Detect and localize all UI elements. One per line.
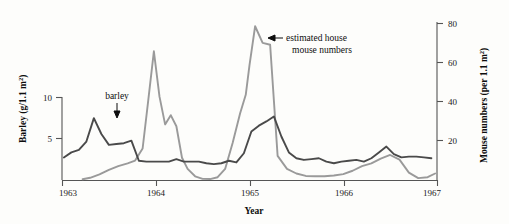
series-line-barley xyxy=(64,116,432,164)
annotation-mouse-label-line1: estimated house xyxy=(286,33,347,43)
x-tick-label-1964: 1964 xyxy=(147,188,166,198)
annotation-barley-label: barley xyxy=(105,91,129,101)
x-tick-label-1965: 1965 xyxy=(241,188,260,198)
right-tick-label-60: 60 xyxy=(448,58,458,68)
left-tick-label-5: 5 xyxy=(48,134,53,144)
x-axis-title: Year xyxy=(245,206,265,216)
x-tick-label-1966: 1966 xyxy=(335,188,354,198)
line-chart: 10 5 Barley (g/1.1 m2) 80 60 40 20 Mouse… xyxy=(0,0,509,224)
arrow-down-icon xyxy=(114,111,120,118)
left-axis: 10 5 Barley (g/1.1 m2) xyxy=(17,75,62,180)
annotation-barley: barley xyxy=(105,91,129,118)
x-axis: 1963 1964 1965 1966 1967 Year xyxy=(59,180,442,216)
right-tick-label-80: 80 xyxy=(448,19,458,29)
series-line-mouse xyxy=(83,26,436,179)
annotation-mouse: estimated house mouse numbers xyxy=(268,33,352,55)
x-tick-label-1963: 1963 xyxy=(59,188,78,198)
right-tick-label-20: 20 xyxy=(448,136,458,146)
right-axis: 80 60 40 20 Mouse numbers (per 1.1 m2) xyxy=(437,19,490,180)
left-axis-title: Barley (g/1.1 m2) xyxy=(17,75,29,143)
annotation-mouse-label-line2: mouse numbers xyxy=(292,45,352,55)
arrow-left-icon xyxy=(268,35,275,41)
left-tick-label-10: 10 xyxy=(43,93,53,103)
right-axis-title: Mouse numbers (per 1.1 m2) xyxy=(478,48,490,163)
chart-container: 10 5 Barley (g/1.1 m2) 80 60 40 20 Mouse… xyxy=(0,0,509,224)
right-tick-label-40: 40 xyxy=(448,97,458,107)
x-tick-label-1967: 1967 xyxy=(423,188,442,198)
